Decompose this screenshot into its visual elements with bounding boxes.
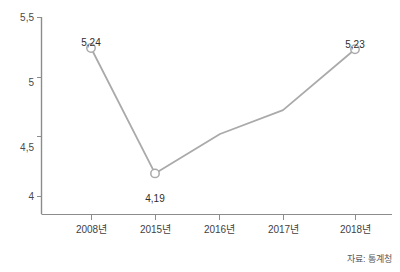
x-tick-label-2016: 2016년: [187, 224, 252, 235]
y-tick-label-5: 5: [0, 77, 34, 88]
y-tick-label-5-5: 5,5: [0, 12, 34, 23]
data-line-series: [91, 48, 355, 173]
line-chart: 5,5 5 4,5 4 2008년 2015년 2016년 2017년 2018…: [0, 0, 400, 272]
data-label-2015: 4,19: [130, 193, 180, 204]
data-point-markers: [87, 44, 359, 178]
x-tick-marks: [92, 215, 356, 221]
data-label-2008: 5,24: [66, 37, 116, 48]
data-point-marker-2015년: [151, 169, 159, 177]
x-tick-label-2015: 2015년: [123, 224, 188, 235]
source-note: 자료: 통계청: [347, 254, 392, 264]
y-tick-label-4: 4: [0, 191, 34, 202]
x-tick-label-2017: 2017년: [251, 224, 316, 235]
x-tick-label-2018: 2018년: [323, 224, 388, 235]
data-label-2018: 5,23: [330, 39, 380, 50]
y-tick-label-4-5: 4,5: [0, 142, 34, 153]
x-tick-label-2008: 2008년: [59, 224, 124, 235]
